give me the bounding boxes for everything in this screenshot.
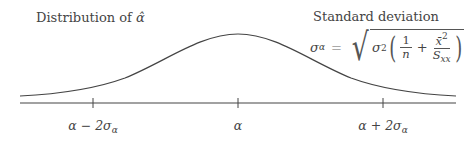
distribution-title: Distribution of α̂ [36, 10, 145, 25]
fraction-one-over-n: 1 n [400, 34, 411, 61]
formula-equals: = [331, 40, 342, 55]
tick-label-subscript: α [112, 125, 118, 135]
formula-plus: + [417, 40, 428, 55]
fraction-xbar-over-sxx: x̄2 Sxx [433, 30, 451, 66]
radical-sign-icon: √ [351, 28, 368, 66]
formula-sigma: σ [372, 40, 381, 55]
radicand: σ2 ( 1 n + x̄2 Sxx ) [370, 29, 464, 66]
tick-label-mean: α [234, 118, 242, 133]
frac2-denominator: Sxx [433, 49, 451, 66]
xbar-exponent: 2 [442, 31, 448, 41]
alpha-hat-symbol: α̂ [136, 10, 145, 25]
formula-sigma-exponent: 2 [381, 43, 387, 53]
std-dev-formula: σα = √ σ2 ( 1 n + x̄2 Sxx ) [310, 28, 464, 66]
distribution-title-text: Distribution of [36, 10, 132, 25]
square-root: √ σ2 ( 1 n + x̄2 Sxx ) [348, 28, 465, 66]
frac1-numerator: 1 [400, 34, 411, 48]
tick-label-plus-2sigma: α + 2σα [358, 118, 407, 135]
frac2-numerator: x̄2 [434, 30, 450, 49]
s-subscript: xx [441, 54, 451, 64]
tick-label-text: α + 2σ [358, 118, 401, 133]
formula-lhs-subscript: α [319, 42, 325, 52]
std-dev-title: Standard deviation [313, 9, 439, 24]
tick-label-text: α [234, 118, 242, 133]
open-paren: ( [389, 33, 396, 63]
tick-label-text: α − 2σ [68, 118, 111, 133]
tick-label-minus-2sigma: α − 2σα [68, 118, 117, 135]
formula-sigma-lhs: σ [310, 40, 319, 55]
s-symbol: S [433, 48, 441, 62]
frac1-denominator: n [402, 48, 409, 61]
close-paren: ) [455, 33, 462, 63]
tick-label-subscript: α [402, 125, 408, 135]
